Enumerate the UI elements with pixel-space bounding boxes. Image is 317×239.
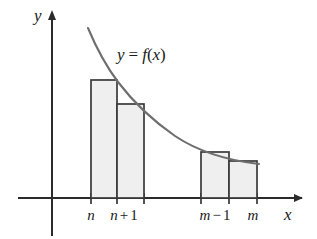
bar-m-minus-1	[201, 152, 229, 198]
rectangle-bars	[91, 80, 257, 198]
tick-label-n-plus-1-tail: 1	[130, 207, 138, 223]
tick-label-m-minus-1: m−1	[200, 208, 231, 223]
x-axis-label: x	[284, 206, 292, 223]
curve-label-equals: =	[125, 45, 143, 64]
bar-n-plus-1	[117, 104, 144, 198]
x-axis	[18, 194, 303, 202]
bar-n	[91, 80, 117, 198]
tick-label-m-minus-1-tail: 1	[223, 207, 231, 223]
tick-label-n-plus-1-main: n	[110, 207, 118, 223]
tick-label-m-minus-1-op: −	[210, 207, 222, 223]
x-axis-arrowhead	[294, 194, 303, 202]
bar-m	[229, 161, 257, 198]
tick-label-n-main: n	[87, 207, 95, 223]
figure-canvas	[0, 0, 317, 239]
integral-test-figure: y x y=f(x) n n+1 m−1 m	[0, 0, 317, 239]
tick-label-m-main: m	[248, 207, 259, 223]
tick-label-m: m	[248, 208, 259, 223]
curve-label-y: y	[117, 45, 125, 64]
tick-label-n-plus-1: n+1	[110, 208, 137, 223]
tick-label-n: n	[87, 208, 95, 223]
curve-equation-label: y=f(x)	[117, 46, 166, 63]
curve-label-close-paren: )	[160, 45, 166, 64]
y-axis	[48, 10, 56, 236]
tick-label-n-plus-1-op: +	[118, 207, 130, 223]
tick-label-m-minus-1-main: m	[200, 207, 211, 223]
y-axis-label: y	[34, 7, 42, 24]
y-axis-arrowhead	[48, 10, 56, 20]
curve-label-variable: x	[153, 45, 161, 64]
